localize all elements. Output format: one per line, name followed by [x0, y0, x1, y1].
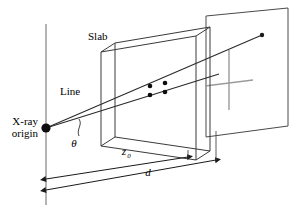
z0-label-subscript: 0	[127, 152, 131, 160]
xray-origin-point	[41, 123, 50, 132]
d-label: d	[145, 166, 151, 178]
diagram-canvas: Slab Line X-ray origin θ z 0 d	[0, 0, 302, 217]
slab-intersection-dot	[163, 81, 168, 86]
z0-label: z	[121, 145, 127, 157]
slab-intersection-dot	[163, 90, 168, 95]
xray-ray-upper-endpoint-dot	[260, 33, 264, 37]
theta-label: θ	[71, 137, 77, 149]
xray-origin-label-line2: origin	[12, 127, 39, 139]
slab-label: Slab	[88, 30, 108, 42]
diagram-background	[0, 0, 302, 217]
line-label: Line	[60, 85, 80, 97]
slab-intersection-dot	[148, 93, 153, 98]
xray-origin-label-line1: X-ray	[12, 115, 38, 127]
slab-intersection-dot	[148, 84, 153, 89]
xray-geometry-diagram: Slab Line X-ray origin θ z 0 d	[0, 0, 302, 217]
